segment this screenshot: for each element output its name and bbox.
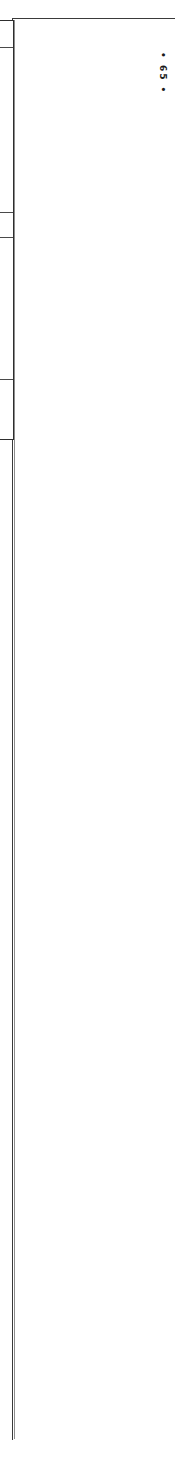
project-code-label: 工程编号 (0, 333, 13, 380)
owner-project-column: 建设单位 ×××投资开发集团 有限责任公司 工程项目 ×××建设项目 子项 办公… (0, 21, 13, 212)
drawing-titles: 4—4剖面图 5—5剖面图 (0, 237, 13, 333)
code-column: 工程编号 ××××-×××× 档案编号 电子文件号 图号 建施 18 (0, 333, 13, 439)
drawing-name-label: 图名 (0, 213, 13, 237)
title-block-container: 建设单位 ×××投资开发集团 有限责任公司 工程项目 ×××建设项目 子项 办公… (0, 20, 14, 440)
owner-name: ×××投资开发集团 有限责任公司 (0, 47, 13, 212)
page-number: • 65 • (158, 52, 168, 94)
title-block: 建设单位 ×××投资开发集团 有限责任公司 工程项目 ×××建设项目 子项 办公… (0, 20, 14, 440)
drawing-name-area: 图名 4—4剖面图 5—5剖面图 (0, 213, 13, 333)
drawing-name-column: 图名 4—4剖面图 5—5剖面图 比例 1:100 日期 ×××× . ×× .… (0, 212, 13, 333)
page-frame-inner (14, 20, 174, 1439)
project-code-row: 工程编号 ××××-×××× (0, 333, 13, 439)
project-code-value: ××××-×××× (0, 380, 13, 439)
owner-row: 建设单位 ×××投资开发集团 有限责任公司 (0, 21, 13, 212)
owner-label: 建设单位 (0, 21, 13, 47)
